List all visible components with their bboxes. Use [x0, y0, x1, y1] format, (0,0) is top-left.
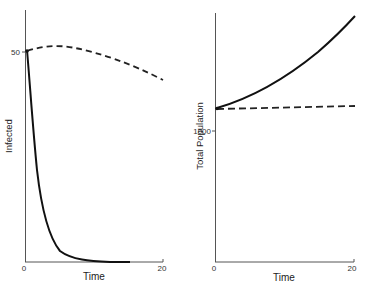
- left-ytick-50: 50: [11, 48, 20, 57]
- right-chart: 1000 0 20 Time Total Population: [193, 13, 357, 283]
- left-xtick-0: 0: [22, 264, 27, 273]
- right-x-label: Time: [273, 272, 295, 283]
- right-xtick-20: 20: [348, 264, 357, 273]
- left-chart: 50 0 20 Time Infected: [3, 10, 167, 282]
- left-solid-line: [27, 50, 130, 262]
- right-solid-line: [217, 16, 355, 108]
- left-y-label: Infected: [3, 119, 14, 153]
- right-xtick-0: 0: [212, 264, 217, 273]
- right-y-label: Total Population: [194, 102, 205, 170]
- left-dashed-line: [27, 46, 163, 80]
- left-xtick-20: 20: [158, 264, 167, 273]
- right-dashed-line: [217, 106, 355, 109]
- figure: 50 0 20 Time Infected 1000 0 20 Time Tot…: [0, 0, 365, 290]
- left-x-label: Time: [83, 271, 105, 282]
